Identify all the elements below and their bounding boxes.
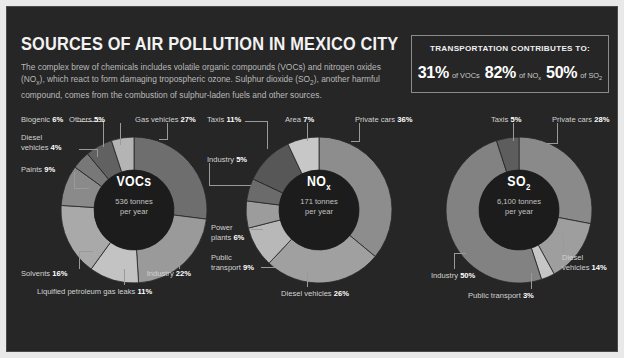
label-nox-taxis: Taxis 11% — [207, 115, 241, 125]
leader-so2-diesel — [563, 233, 564, 253]
leader-so2-public — [531, 273, 532, 289]
stat-nox-value: 82% — [485, 64, 516, 82]
leader-nox-industry — [209, 163, 210, 185]
leader-vocs-solvents-2 — [79, 251, 93, 252]
label-nox-power-plants: Power plants 6% — [211, 223, 244, 242]
leader-vocs-diesel — [79, 149, 97, 150]
leader-nox-public — [261, 267, 275, 268]
leader-vocs-biogenic-2 — [103, 121, 104, 147]
leader-vocs-paints-2 — [74, 188, 89, 189]
stat-vocs: 31% of VOCs — [418, 64, 480, 82]
label-nox-area: Area 7% — [285, 115, 314, 125]
leader-nox-taxis — [245, 121, 267, 122]
leader-vocs-gas-1 — [167, 123, 168, 139]
leader-so2-private-2 — [547, 143, 558, 144]
infographic-page: SOURCES OF AIR POLLUTION IN MEXICO CITY … — [0, 0, 624, 358]
stat-so2-label: of SO2 — [580, 71, 602, 81]
page-title: SOURCES OF AIR POLLUTION IN MEXICO CITY — [21, 33, 398, 55]
leader-nox-industry-2 — [209, 185, 251, 186]
stat-so2: 50% of SO2 — [546, 64, 602, 82]
transportation-contributes-box: TRANSPORTATION CONTRIBUTES TO: 31% of VO… — [411, 35, 609, 93]
label-vocs-others: Others 5% — [69, 115, 105, 125]
leader-so2-taxis — [513, 123, 514, 141]
stat-vocs-label: of VOCs — [452, 71, 480, 80]
label-nox-diesel: Diesel vehicles 26% — [281, 289, 349, 299]
label-so2-diesel: Diesel vehicles 14% — [562, 253, 607, 272]
leader-vocs-gas-2 — [159, 139, 168, 140]
donut-chart-nox: NOx 171 tonnesper year — [244, 135, 394, 285]
leader-so2-industry — [454, 253, 455, 269]
leader-vocs-others — [120, 123, 121, 145]
page-subtitle: The complex brew of chemicals includes v… — [21, 61, 401, 102]
label-vocs-biogenic: Biogenic 6% — [21, 115, 63, 125]
label-nox-industry: Industry 5% — [207, 155, 247, 165]
leader-vocs-diesel-2 — [97, 149, 98, 157]
donut-center-title-nox: NOx — [253, 173, 385, 192]
donut-chart-vocs: VOCs 536 tonnesper year — [59, 135, 209, 285]
transportation-box-title: TRANSPORTATION CONTRIBUTES TO: — [412, 44, 608, 53]
stat-vocs-value: 31% — [418, 64, 449, 82]
stat-nox: 82% of NOx — [485, 64, 541, 82]
leader-nox-private — [359, 123, 360, 141]
label-nox-private-cars: Private cars 36% — [355, 115, 412, 125]
donut-center-title-so2: SO2 — [453, 173, 585, 192]
label-vocs-diesel: Diesel vehicles 4% — [21, 133, 62, 152]
label-nox-public-transport: Public transport 9% — [211, 253, 254, 272]
leader-vocs-paints — [74, 172, 75, 188]
leader-nox-area — [307, 123, 308, 141]
label-so2-industry: Industry 50% — [431, 271, 475, 281]
donut-center-amount-nox: 171 tonnesper year — [244, 197, 394, 217]
label-so2-taxis: Taxis 5% — [491, 115, 521, 125]
leader-vocs-industry-2 — [170, 251, 180, 252]
transportation-stats: 31% of VOCs 82% of NOx 50% of SO2 — [412, 64, 608, 82]
leader-vocs-lpg — [124, 269, 125, 285]
leader-so2-industry-2 — [454, 253, 466, 254]
label-vocs-paints: Paints 9% — [21, 165, 55, 175]
label-so2-private-cars: Private cars 28% — [552, 115, 609, 125]
label-so2-public-transport: Public transport 3% — [468, 291, 534, 301]
stat-nox-label: of NOx — [519, 71, 541, 81]
stat-so2-value: 50% — [546, 64, 577, 82]
donut-center-title-vocs: VOCs — [68, 173, 200, 189]
leader-nox-taxis-2 — [267, 121, 268, 149]
leader-nox-private-2 — [351, 141, 360, 142]
leader-nox-diesel — [307, 271, 308, 287]
leader-nox-power — [251, 229, 263, 230]
leader-vocs-solvents — [79, 251, 80, 269]
donut-center-amount-vocs: 536 tonnesper year — [59, 197, 209, 217]
leader-so2-diesel-2 — [553, 233, 564, 234]
label-vocs-lpg: Liquified petroleum gas leaks 11% — [37, 287, 152, 297]
label-vocs-industry: Industry 22% — [127, 269, 191, 279]
label-vocs-solvents: Solvents 16% — [21, 269, 67, 279]
infographic-board: SOURCES OF AIR POLLUTION IN MEXICO CITY … — [6, 6, 618, 352]
label-vocs-gas-vehicles: Gas vehicles 27% — [135, 115, 196, 125]
donut-center-amount-so2: 6,100 tonnesper year — [444, 197, 594, 217]
leader-vocs-industry — [179, 251, 180, 269]
leader-so2-private — [557, 123, 558, 143]
